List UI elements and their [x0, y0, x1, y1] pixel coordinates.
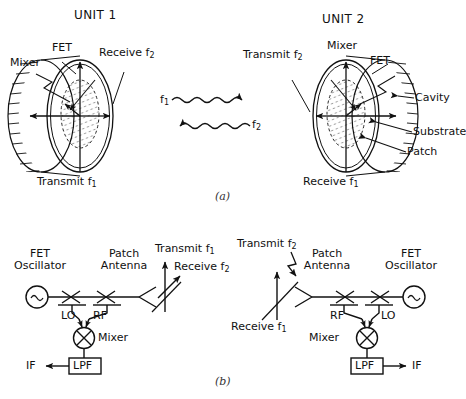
right-mixer-label: Mixer	[309, 332, 339, 344]
unit2-cavity-label: Cavity	[415, 92, 450, 104]
unit1-mixer-label: Mixer	[10, 57, 40, 69]
right-antenna-label: Patch Antenna	[299, 248, 355, 272]
unit2-cavity-leader	[398, 96, 414, 98]
unit1-receive-leader	[113, 72, 124, 104]
right-mixer-symbol	[357, 328, 378, 349]
unit1-receive-label: Receive f2	[99, 47, 155, 62]
unit1-title: UNIT 1	[74, 8, 116, 22]
left-mixer-symbol	[74, 328, 95, 349]
left-receive-label: Receive f2	[174, 261, 230, 276]
left-oscillator-line2: Oscillator	[12, 260, 68, 272]
unit1-fet-label: FET	[52, 42, 72, 54]
wave-f1-label: f1	[160, 94, 169, 109]
left-receive-text: Receive f	[174, 260, 224, 273]
right-rf-label: RF	[330, 310, 344, 322]
unit1-transmit-label: Transmit f1	[37, 176, 97, 191]
right-patch-antenna-symbol	[295, 287, 312, 307]
right-lo-label: LO	[381, 310, 395, 322]
wave-f1-subscript: 1	[164, 98, 169, 107]
right-antenna-line2: Antenna	[299, 260, 355, 272]
unit2-receive-text: Receive f	[303, 175, 353, 188]
wave-f2	[180, 124, 250, 129]
unit2-antenna-disc	[292, 56, 418, 176]
unit1-transmit-subscript: 1	[92, 180, 97, 189]
wave-f2-subscript: 2	[256, 123, 261, 132]
left-transmit-label: Transmit f1	[155, 243, 215, 258]
unit2-transmit-label: Transmit f2	[243, 49, 303, 64]
left-rf-label: RF	[93, 310, 107, 322]
wave-f1	[172, 98, 242, 103]
left-if-label: IF	[26, 360, 36, 372]
unit2-transmit-leader	[292, 80, 310, 112]
right-oscillator-line2: Oscillator	[383, 260, 439, 272]
unit2-substrate-label: Substrate	[413, 126, 466, 138]
unit1-antenna-disc	[8, 56, 124, 176]
left-lo-label: LO	[61, 310, 75, 322]
unit2-receive-subscript: 1	[353, 180, 358, 189]
left-oscillator-label: FET Oscillator	[12, 248, 68, 272]
left-lpf-label: LPF	[73, 360, 92, 372]
unit2-title: UNIT 2	[322, 12, 364, 26]
unit1-transmit-text: Transmit f	[37, 175, 92, 188]
right-if-label: IF	[412, 360, 422, 372]
unit2-transmit-subscript: 2	[298, 53, 303, 62]
left-transmit-subscript: 1	[210, 247, 215, 256]
unit1-receive-subscript: 2	[149, 51, 154, 60]
left-antenna-label: Patch Antenna	[96, 248, 152, 272]
right-receive-label: Receive f1	[231, 321, 287, 336]
unit2-patch-label: Patch	[407, 146, 437, 158]
right-receive-text: Receive f	[231, 320, 281, 333]
panel-b-caption: (b)	[215, 375, 231, 388]
unit1-receive-text: Receive f	[99, 46, 149, 59]
unit2-fet-label: FET	[370, 55, 390, 67]
left-transmit-text: Transmit f	[155, 242, 210, 255]
right-transmit-text: Transmit f	[237, 237, 292, 250]
right-transmit-arrow	[288, 252, 296, 276]
right-transmit-subscript: 2	[292, 242, 297, 251]
left-antenna-line2: Antenna	[96, 260, 152, 272]
right-lpf-label: LPF	[355, 360, 374, 372]
unit2-receive-label: Receive f1	[303, 176, 359, 191]
left-patch-antenna-symbol	[139, 287, 156, 307]
unit2-mixer-label: Mixer	[327, 40, 357, 52]
unit2-transmit-text: Transmit f	[243, 48, 298, 61]
right-oscillator-label: FET Oscillator	[383, 248, 439, 272]
unit2-substrate-leader	[376, 122, 412, 132]
left-receive-subscript: 2	[224, 265, 229, 274]
right-receive-subscript: 1	[281, 325, 286, 334]
panel-a-caption: (a)	[215, 190, 230, 203]
wave-f2-label: f2	[252, 119, 261, 134]
left-mixer-label: Mixer	[98, 332, 128, 344]
right-transmit-label: Transmit f2	[237, 238, 297, 253]
